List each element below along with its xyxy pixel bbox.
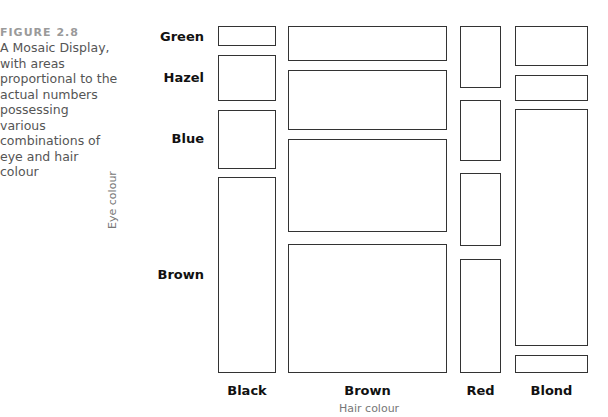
col-label-red: Red: [460, 383, 501, 398]
tile-brown-green: [288, 26, 447, 61]
tile-red-brown: [460, 259, 501, 373]
tile-red-blue: [460, 173, 501, 246]
tile-black-hazel: [218, 55, 276, 101]
figure-caption-text: A Mosaic Display, with areas proportiona…: [0, 40, 118, 180]
tile-red-hazel: [460, 100, 501, 161]
row-label-green: Green: [134, 29, 204, 44]
col-label-blond: Blond: [515, 383, 588, 398]
tile-brown-brown: [288, 244, 447, 373]
tile-blond-brown: [515, 355, 588, 373]
tile-red-green: [460, 26, 501, 88]
row-label-hazel: Hazel: [134, 70, 204, 85]
tile-black-blue: [218, 110, 276, 169]
tile-blond-blue: [515, 109, 588, 346]
tile-blond-green: [515, 26, 588, 66]
y-axis-label: Eye colour: [106, 171, 119, 229]
tile-blond-hazel: [515, 75, 588, 101]
tile-brown-hazel: [288, 70, 447, 130]
col-label-brown: Brown: [288, 383, 447, 398]
row-label-blue: Blue: [134, 131, 204, 146]
figure-label: FIGURE 2.8: [0, 26, 79, 39]
x-axis-label: Hair colour: [339, 402, 399, 415]
col-label-black: Black: [218, 383, 276, 398]
tile-black-green: [218, 26, 276, 46]
tile-brown-blue: [288, 139, 447, 232]
tile-black-brown: [218, 177, 276, 373]
row-label-brown: Brown: [134, 267, 204, 282]
